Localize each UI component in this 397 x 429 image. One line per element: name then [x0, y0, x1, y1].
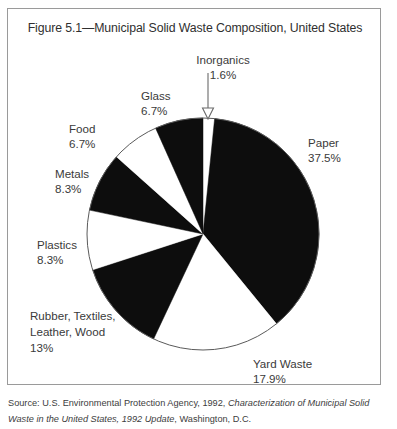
pie-chart: Inorganics 1.6% Glass 6.7% Paper 37.5% F… [8, 9, 382, 386]
slice-label-yard-waste-name: Yard Waste [253, 357, 312, 370]
slice-label-plastics: Plastics 8.3% [37, 238, 77, 267]
slice-label-rubber-line1: Rubber, Textiles, [30, 309, 116, 322]
slice-label-paper-pct: 37.5% [308, 151, 341, 166]
slice-label-glass: Glass 6.7% [141, 89, 171, 118]
figure-container: Figure 5.1—Municipal Solid Waste Composi… [7, 8, 381, 385]
slice-label-food: Food 6.7% [69, 122, 95, 151]
slice-label-metals: Metals 8.3% [55, 167, 89, 196]
slice-label-plastics-name: Plastics [37, 238, 77, 251]
source-suffix: , Washington, D.C. [174, 414, 251, 424]
slice-label-paper: Paper 37.5% [308, 136, 341, 165]
pie-slices [87, 118, 319, 350]
slice-label-inorganics-name: Inorganics [196, 53, 250, 66]
slice-label-plastics-pct: 8.3% [37, 253, 77, 268]
slice-label-rubber-line2: Leather, Wood [30, 324, 116, 340]
slice-label-metals-name: Metals [55, 167, 89, 180]
slice-label-rubber-textiles-leather-wood: Rubber, Textiles, Leather, Wood 13% [30, 308, 116, 356]
slice-label-food-pct: 6.7% [69, 137, 95, 152]
slice-label-glass-name: Glass [141, 89, 171, 102]
slice-label-paper-name: Paper [308, 136, 339, 149]
slice-label-rubber-pct: 13% [30, 340, 116, 356]
slice-label-inorganics: Inorganics 1.6% [178, 53, 268, 82]
slice-label-metals-pct: 8.3% [55, 182, 89, 197]
slice-label-inorganics-pct: 1.6% [178, 68, 268, 83]
slice-label-yard-waste: Yard Waste 17.9% [253, 357, 312, 386]
slice-label-food-name: Food [69, 122, 95, 135]
slice-label-yard-waste-pct: 17.9% [253, 372, 312, 387]
slice-label-glass-pct: 6.7% [141, 104, 171, 119]
source-note: Source: U.S. Environmental Protection Ag… [8, 395, 380, 427]
source-prefix: Source: U.S. Environmental Protection Ag… [8, 398, 228, 408]
